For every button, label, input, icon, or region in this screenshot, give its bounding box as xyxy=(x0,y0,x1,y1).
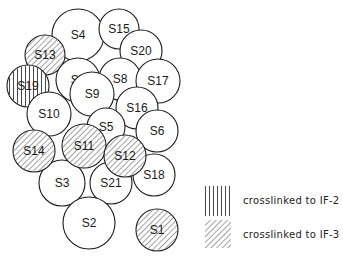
subunit-label: S9 xyxy=(85,87,100,101)
subunit-label: S4 xyxy=(71,28,86,42)
subunit-label: S11 xyxy=(74,139,95,153)
subunit-label: S18 xyxy=(143,168,165,182)
subunit-label: S19 xyxy=(17,79,39,93)
subunit-label: S14 xyxy=(23,144,45,158)
subunit-s10: S10 xyxy=(27,92,71,136)
subunit-label: S21 xyxy=(100,176,122,190)
subunit-label: S16 xyxy=(126,101,148,115)
legend xyxy=(205,186,231,248)
subunit-label: S13 xyxy=(34,48,56,62)
subunit-label: S10 xyxy=(38,107,60,121)
subunit-label: S1 xyxy=(150,223,165,237)
subunit-s12: S12 xyxy=(104,135,146,177)
subunit-label: S8 xyxy=(113,72,128,86)
subunit-s11: S11 xyxy=(62,124,106,168)
subunit-label: S20 xyxy=(130,44,152,58)
subunit-s2: S2 xyxy=(63,197,115,249)
subunit-diagram: S4S15S20S13S7S8S17S19S10S9S16S5S6S3S21S1… xyxy=(0,0,343,262)
legend-label-if2: crosslinked to IF-2 xyxy=(243,195,340,206)
legend-label-if3: crosslinked to IF-3 xyxy=(243,229,340,240)
legend-swatch-diagonal-hatch xyxy=(205,220,231,248)
subunit-label: S6 xyxy=(150,124,165,138)
subunit-s1: S1 xyxy=(136,209,178,251)
subunit-label: S15 xyxy=(108,22,130,36)
subunit-label: S12 xyxy=(114,149,136,163)
subunit-s14: S14 xyxy=(13,130,55,172)
legend-swatch-vertical-lines xyxy=(205,186,231,216)
subunit-label: S17 xyxy=(147,74,169,88)
subunit-label: S2 xyxy=(82,216,97,230)
circles-layer: S4S15S20S13S7S8S17S19S10S9S16S5S6S3S21S1… xyxy=(7,9,180,251)
subunit-label: S3 xyxy=(55,176,70,190)
